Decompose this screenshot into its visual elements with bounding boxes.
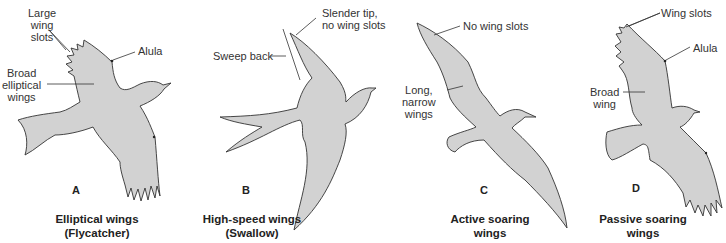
albatross-silhouette — [417, 23, 567, 228]
label-line: Long, — [402, 84, 436, 96]
caption-line: (Flycatcher) — [32, 226, 162, 240]
label-sweep-back: Sweep back — [213, 50, 273, 62]
caption-line: wings — [440, 226, 540, 240]
caption-line: High-speed wings — [192, 212, 312, 226]
caption-line: Active soaring — [440, 212, 540, 226]
caption-line: Passive soaring — [593, 212, 693, 226]
label-line: wings — [402, 108, 436, 120]
caption-line: (Swallow) — [192, 226, 312, 240]
panel-letter-b: B — [242, 184, 250, 196]
label-large-wing-slots: Large wing slots — [28, 7, 56, 43]
caption-a: Elliptical wings (Flycatcher) — [32, 212, 162, 240]
label-line: Large — [28, 7, 56, 19]
caption-d: Passive soaring wings — [593, 212, 693, 240]
caption-line: Elliptical wings — [32, 212, 162, 226]
label-line: narrow — [402, 96, 436, 108]
caption-line: wings — [593, 226, 693, 240]
caption-c: Active soaring wings — [440, 212, 540, 240]
label-line: no wing slots — [322, 19, 386, 31]
label-line: slots — [28, 31, 56, 43]
label-line: elliptical — [2, 79, 41, 91]
label-wing-slots: Wing slots — [661, 7, 712, 19]
label-line: wing — [590, 98, 619, 110]
label-broad-wing: Broad wing — [590, 86, 619, 110]
label-line: wing — [28, 19, 56, 31]
caption-b: High-speed wings (Swallow) — [192, 212, 312, 240]
panel-letter-a: A — [72, 184, 80, 196]
label-line: Broad — [2, 67, 41, 79]
label-line: Slender tip, — [322, 7, 386, 19]
label-long-narrow-wings: Long, narrow wings — [402, 84, 436, 120]
label-line: wings — [2, 91, 41, 103]
label-slender-tip: Slender tip, no wing slots — [322, 7, 386, 31]
label-line: Broad — [590, 86, 619, 98]
bird-wings-figure — [0, 0, 726, 243]
label-no-wing-slots: No wing slots — [463, 20, 528, 32]
label-alula-a: Alula — [138, 45, 162, 57]
panel-letter-c: C — [480, 184, 488, 196]
label-broad-elliptical-wings: Broad elliptical wings — [2, 67, 41, 103]
label-alula-d: Alula — [693, 42, 717, 54]
panel-letter-d: D — [632, 182, 640, 194]
